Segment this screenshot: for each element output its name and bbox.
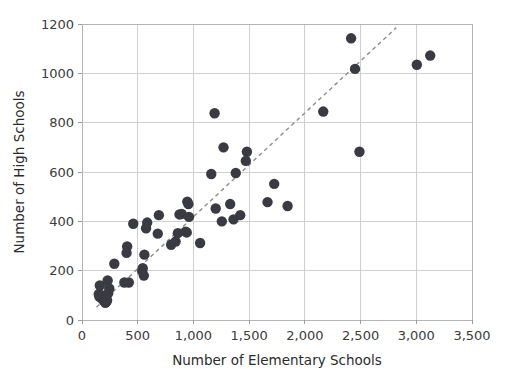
data-point bbox=[217, 216, 227, 226]
data-point bbox=[346, 33, 356, 43]
data-point bbox=[235, 210, 245, 220]
data-point bbox=[354, 147, 364, 157]
data-point bbox=[412, 59, 422, 69]
data-point bbox=[104, 283, 114, 293]
data-point bbox=[241, 156, 251, 166]
data-point bbox=[242, 147, 252, 157]
x-tick-label-1500: 1,500 bbox=[231, 328, 268, 343]
data-point bbox=[139, 249, 149, 259]
data-point bbox=[350, 64, 360, 74]
data-point bbox=[109, 259, 119, 269]
data-point bbox=[139, 270, 149, 280]
data-point bbox=[425, 50, 435, 60]
data-point bbox=[195, 238, 205, 248]
x-tick-label-2500: 2,500 bbox=[342, 328, 379, 343]
data-point bbox=[282, 201, 292, 211]
y-axis-title: Number of High Schools bbox=[11, 91, 27, 254]
data-point bbox=[209, 108, 219, 118]
x-tick-label-3000: 3,000 bbox=[398, 328, 435, 343]
data-point bbox=[318, 106, 328, 116]
chart-svg: 020040060080010001200 05001,0001,5002,00… bbox=[0, 0, 511, 385]
y-tick-marks bbox=[78, 24, 82, 320]
x-tick-label-2000: 2,000 bbox=[286, 328, 323, 343]
y-tick-label-400: 400 bbox=[49, 214, 74, 229]
data-point bbox=[231, 168, 241, 178]
x-axis-title: Number of Elementary Schools bbox=[172, 352, 382, 368]
data-point bbox=[269, 179, 279, 189]
data-point bbox=[262, 197, 272, 207]
data-point bbox=[184, 212, 194, 222]
x-tick-label-1000: 1,000 bbox=[175, 328, 212, 343]
x-tick-labels: 05001,0001,5002,0002,5003,0003,500 bbox=[78, 328, 491, 343]
data-point bbox=[128, 219, 138, 229]
data-point bbox=[225, 199, 235, 209]
data-point bbox=[206, 169, 216, 179]
scatter-chart: 020040060080010001200 05001,0001,5002,00… bbox=[0, 0, 511, 385]
data-point bbox=[154, 210, 164, 220]
data-point bbox=[142, 217, 152, 227]
y-tick-label-0: 0 bbox=[66, 313, 74, 328]
y-tick-label-1200: 1200 bbox=[41, 17, 74, 32]
data-point bbox=[183, 199, 193, 209]
data-point bbox=[153, 228, 163, 238]
x-tick-label-500: 500 bbox=[125, 328, 150, 343]
data-point bbox=[182, 227, 192, 237]
y-tick-label-1000: 1000 bbox=[41, 66, 74, 81]
y-tick-label-800: 800 bbox=[49, 115, 74, 130]
x-tick-marks bbox=[82, 320, 472, 324]
y-tick-label-200: 200 bbox=[49, 263, 74, 278]
y-tick-labels: 020040060080010001200 bbox=[41, 17, 74, 328]
data-point bbox=[124, 277, 134, 287]
x-tick-label-3500: 3,500 bbox=[453, 328, 490, 343]
y-tick-label-600: 600 bbox=[49, 165, 74, 180]
data-point bbox=[211, 203, 221, 213]
data-point bbox=[218, 142, 228, 152]
data-point bbox=[122, 241, 132, 251]
x-tick-label-0: 0 bbox=[78, 328, 86, 343]
